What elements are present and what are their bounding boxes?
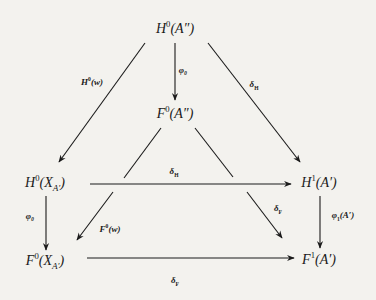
label-delta-h-horizontal: δH bbox=[170, 166, 179, 176]
commutative-diagram: H0(A″) F0(A″) H0(XA′) H1(A′) F0(XA′) F1(… bbox=[0, 0, 376, 300]
label-phi0-top: φ₀ bbox=[179, 65, 187, 75]
label-phi1-a-prime: φ1(A′) bbox=[332, 210, 355, 220]
label-f0-w: F0(w) bbox=[100, 224, 121, 234]
node-h0-x-a-prime: H0(XA′) bbox=[25, 175, 65, 191]
node-base: F bbox=[26, 253, 35, 268]
arrow-mid-to-left-lower-upper-segment bbox=[124, 128, 161, 178]
arrow-top-to-right-upper bbox=[208, 43, 300, 162]
label-sub: H bbox=[254, 85, 258, 91]
node-f0-a-double-prime: F0(A″) bbox=[157, 106, 194, 122]
label-delta-h-diagonal: δH bbox=[250, 79, 259, 89]
node-base: H bbox=[301, 175, 311, 190]
label-sub: F bbox=[176, 281, 179, 287]
label-arg: (A′) bbox=[340, 210, 355, 220]
label-delta-f-horizontal: δF bbox=[171, 275, 179, 285]
node-arg: (A′) bbox=[315, 252, 336, 267]
label-sub: F bbox=[279, 209, 282, 215]
node-arg: (A′) bbox=[316, 175, 337, 190]
node-f0-x-a-prime: F0(XA′) bbox=[26, 253, 64, 269]
arrow-mid-to-right-lower-upper-segment bbox=[195, 128, 233, 177]
label-arg: (w) bbox=[108, 224, 120, 234]
label-arg: (w) bbox=[91, 77, 103, 87]
node-h1-a-prime: H1(A′) bbox=[301, 175, 336, 191]
node-h0-a-double-prime: H0(A″) bbox=[156, 21, 194, 37]
label-text: φ₀ bbox=[26, 211, 34, 221]
arrow-top-to-left-upper bbox=[59, 43, 145, 162]
node-base: H bbox=[25, 175, 35, 190]
label-delta-f-diagonal: δF bbox=[274, 203, 282, 213]
node-sub: A′ bbox=[52, 261, 60, 271]
node-arg: (X bbox=[39, 253, 52, 268]
node-arg-close: ) bbox=[60, 253, 65, 268]
node-arg-close: ) bbox=[60, 175, 65, 190]
label-sub: H bbox=[174, 172, 178, 178]
arrow-mid-to-right-lower bbox=[247, 192, 282, 238]
node-arg: (A″) bbox=[170, 21, 194, 36]
node-arg: (A″) bbox=[170, 106, 194, 121]
node-f1-a-prime: F1(A′) bbox=[302, 252, 336, 268]
label-h0-w: H0(w) bbox=[81, 77, 103, 87]
node-base: F bbox=[302, 252, 311, 267]
node-arg: (X bbox=[40, 175, 53, 190]
node-base: H bbox=[156, 21, 166, 36]
node-base: F bbox=[157, 106, 166, 121]
label-base: H bbox=[81, 77, 88, 87]
label-phi0-left: φ₀ bbox=[26, 211, 34, 221]
label-text: φ₀ bbox=[179, 65, 187, 75]
